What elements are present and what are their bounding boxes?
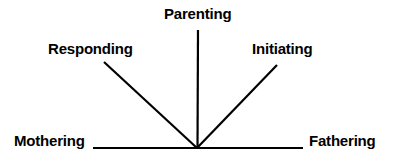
fathering-label: Fathering (309, 132, 376, 149)
diagram-canvas: Mothering Responding Parenting Initiatin… (0, 0, 395, 163)
initiating-label: Initiating (252, 40, 313, 57)
responding-axis-line (104, 62, 197, 148)
mothering-label: Mothering (14, 132, 85, 149)
parenting-label: Parenting (164, 5, 231, 22)
initiating-axis-line (197, 65, 277, 148)
responding-label: Responding (48, 40, 133, 57)
parenting-axis-line (198, 30, 199, 148)
